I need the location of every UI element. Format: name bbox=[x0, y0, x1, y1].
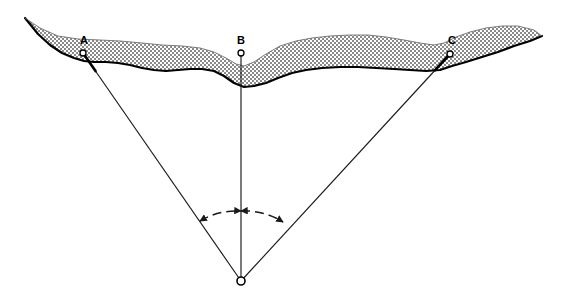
focus-marker[interactable] bbox=[237, 277, 245, 285]
station-marker-c[interactable] bbox=[447, 51, 453, 57]
station-label-a: A bbox=[80, 34, 88, 46]
station-label-b: B bbox=[237, 34, 245, 46]
station-marker-a[interactable] bbox=[80, 50, 86, 56]
ray-diagram-svg: A B C bbox=[0, 0, 564, 306]
station-label-c: C bbox=[448, 34, 456, 46]
figure-root: A B C bbox=[0, 0, 564, 306]
station-marker-b[interactable] bbox=[238, 50, 244, 56]
